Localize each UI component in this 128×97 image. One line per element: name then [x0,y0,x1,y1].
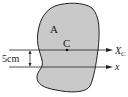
reference-axis-label: x [114,61,120,72]
distance-label: 5cm [2,53,19,64]
dimension-arrow-top [29,51,32,55]
reference-axis-arrowhead [106,65,113,69]
dimension-arrow-bottom [29,63,32,67]
centroidal-axis-label: XC [114,45,126,58]
centroid-label: C [63,37,70,49]
centroid-point [66,49,69,52]
region-label: A [50,23,58,35]
area-centroid-diagram: A C 5cm XC x [0,0,128,97]
centroidal-axis-arrowhead [106,48,113,52]
